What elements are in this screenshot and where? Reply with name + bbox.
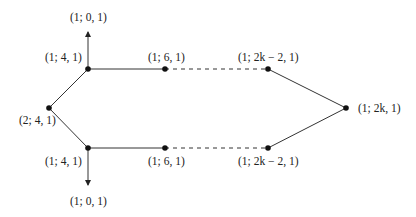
- node-left: [46, 105, 52, 111]
- label-arrow-bottom: (1; 0, 1): [70, 196, 107, 208]
- node-top-right: [265, 66, 271, 72]
- node-top-left: [85, 66, 91, 72]
- label-bottom-mid: (1; 6, 1): [148, 156, 185, 168]
- node-bottom-mid: [162, 145, 168, 151]
- edge-left-top-left: [49, 69, 88, 108]
- label-arrow-top: (1; 0, 1): [70, 12, 107, 24]
- edge-top-right-right: [268, 69, 346, 108]
- label-bottom-right: (1; 2k − 2, 1): [238, 156, 298, 168]
- label-top-left: (1; 4, 1): [45, 52, 82, 64]
- edge-bottom-right-right: [268, 108, 346, 148]
- label-left: (2; 4, 1): [19, 115, 56, 127]
- node-top-mid: [162, 66, 168, 72]
- graph-diagram: [0, 0, 416, 217]
- label-top-mid: (1; 6, 1): [148, 52, 185, 64]
- label-bottom-left: (1; 4, 1): [45, 156, 82, 168]
- label-right: (1; 2k, 1): [358, 103, 400, 115]
- node-right: [343, 105, 349, 111]
- label-top-right: (1; 2k − 2, 1): [238, 52, 298, 64]
- node-bottom-left: [85, 145, 91, 151]
- node-bottom-right: [265, 145, 271, 151]
